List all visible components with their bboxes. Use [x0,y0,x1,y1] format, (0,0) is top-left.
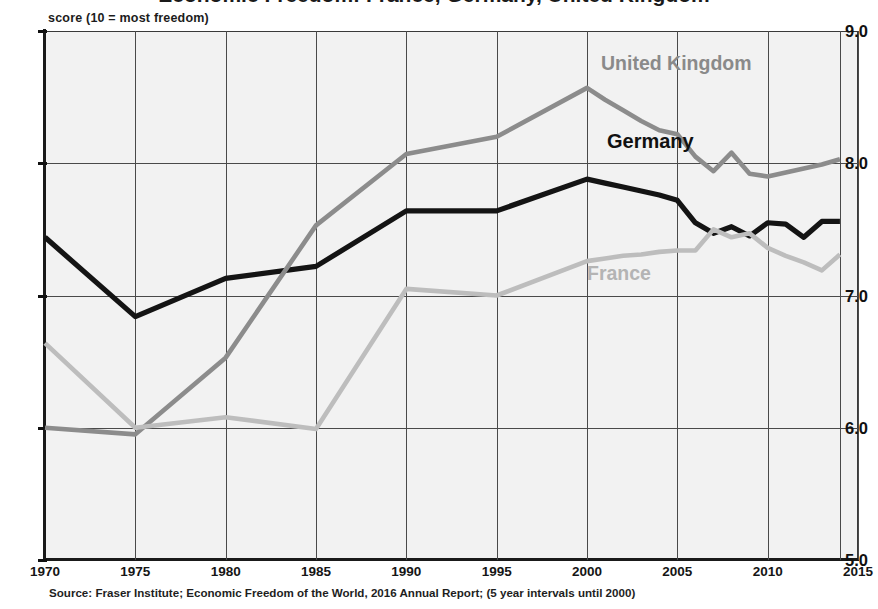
y-tick-mark-5.0 [38,559,47,562]
x-tick-label-1980: 1980 [191,564,261,579]
x-tick-label-2005: 2005 [642,564,712,579]
y-tick-label-9.0: 9.0 [828,22,868,41]
gridline-horizontal-7.0 [45,296,858,297]
y-tick-mark-9.0 [38,30,47,33]
y-tick-mark-6.0 [38,427,47,430]
chart-title-clipped: Economic Freedom: France, Germany, Unite… [0,0,868,9]
x-tick-label-1975: 1975 [100,564,170,579]
x-tick-label-2015: 2015 [823,564,878,579]
y-tick-label-7.0: 7.0 [828,287,868,306]
x-tick-label-1995: 1995 [462,564,532,579]
x-tick-label-2000: 2000 [552,564,622,579]
x-tick-label-2010: 2010 [733,564,803,579]
y-tick-label-6.0: 6.0 [828,419,868,438]
x-tick-label-1985: 1985 [281,564,351,579]
y-tick-label-8.0: 8.0 [828,154,868,173]
gridline-horizontal-6.0 [45,428,858,429]
y-axis-caption: score (10 = most freedom) [48,11,209,25]
x-tick-label-1990: 1990 [371,564,441,579]
x-axis-line [43,558,859,561]
series-label-germany: Germany [607,130,694,153]
x-tick-label-1970: 1970 [10,564,80,579]
series-label-france: France [587,262,651,285]
series-label-united-kingdom: United Kingdom [601,52,752,75]
y-tick-mark-7.0 [38,295,47,298]
y-tick-mark-8.0 [38,162,47,165]
gridline-horizontal-8.0 [45,163,858,164]
page-title: Economic Freedom: France, Germany, Unite… [0,0,868,7]
source-note: Source: Fraser Institute; Economic Freed… [49,586,635,599]
